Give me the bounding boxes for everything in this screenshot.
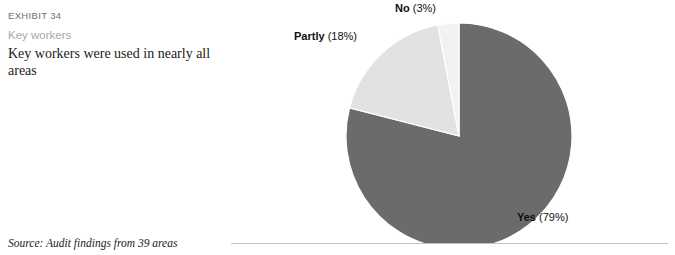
pie-label-partly-name: Partly [294,30,325,42]
pie-label-no-name: No [395,2,410,14]
source-note: Source: Audit findings from 39 areas [8,236,177,250]
pie-label-yes-pct: (79%) [539,211,568,223]
pie-label-partly: Partly (18%) [294,30,357,43]
exhibit-title: Key workers were used in nearly all area… [8,46,213,79]
exhibit-number: EXHIBIT 34 [8,10,223,22]
pie-slice-group [346,23,572,243]
pie-label-no: No (3%) [395,2,436,15]
bottom-rule-divider [231,243,668,244]
pie-label-yes-name: Yes [517,211,536,223]
pie-label-partly-pct: (18%) [328,30,357,42]
pie-label-no-pct: (3%) [413,2,436,14]
caption-block: EXHIBIT 34 Key workers Key workers were … [8,10,223,79]
exhibit-figure: EXHIBIT 34 Key workers Key workers were … [0,0,675,255]
pie-label-yes: Yes (79%) [517,211,568,224]
exhibit-subtitle: Key workers [8,28,223,42]
pie-chart: No (3%) Partly (18%) Yes (79%) [232,0,675,243]
